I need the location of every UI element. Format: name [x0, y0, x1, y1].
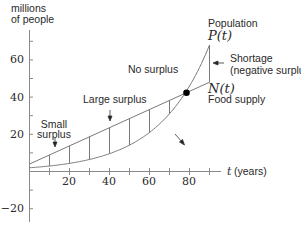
x-axis-label-t: t — [227, 165, 232, 178]
x-tick-label-20: 20 — [62, 175, 76, 188]
small-surplus-label-line2: surplus — [37, 128, 71, 140]
x-tick-label-80: 80 — [182, 175, 196, 188]
large-surplus-label: Large surplus — [83, 93, 147, 105]
y-tick-label-minus20: −20 — [1, 202, 24, 215]
shortage-arrowhead-icon — [213, 61, 218, 65]
y-tick-label-20: 20 — [10, 128, 24, 141]
population-curve — [30, 45, 210, 168]
x-tick-label-60: 60 — [142, 175, 156, 188]
p-of-t-label: P(t) — [207, 28, 232, 43]
y-ticks — [30, 41, 34, 208]
food-supply-label: Food supply — [208, 93, 266, 105]
shortage-label-line1: Shortage — [230, 52, 273, 64]
y-tick-label-60: 60 — [10, 53, 24, 66]
small-surplus-arrowhead-icon — [53, 142, 57, 147]
no-surplus-point — [183, 89, 190, 96]
x-tick-label-40: 40 — [102, 175, 116, 188]
x-axis-label-unit: (years) — [234, 165, 267, 177]
population-food-chart: millions of people 60 40 20 −20 20 40 60… — [0, 0, 301, 226]
curves — [30, 45, 210, 168]
shortage-label-line2: (negative surplus) — [230, 64, 301, 76]
y-tick-label-40: 40 — [10, 91, 24, 104]
y-axis-label-line2: of people — [11, 13, 54, 25]
large-surplus-arrowhead-icon — [108, 116, 112, 121]
no-surplus-label: No surplus — [128, 63, 178, 75]
